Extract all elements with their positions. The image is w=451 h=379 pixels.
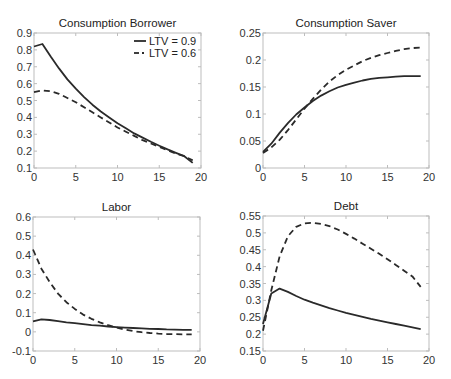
y-tick-label: 0.1 bbox=[246, 108, 261, 120]
x-tick-label: 10 bbox=[110, 354, 122, 366]
y-tick-label: 0.25 bbox=[240, 27, 261, 39]
y-tick-label: 0.5 bbox=[246, 227, 261, 239]
panel-labor: Labor05101520-0.100.10.20.30.40.50.6 bbox=[12, 201, 206, 366]
y-tick-label: 0 bbox=[255, 162, 261, 174]
x-tick-label: 10 bbox=[340, 354, 352, 366]
y-tick-label: 0.1 bbox=[16, 307, 31, 319]
x-tick-label: 5 bbox=[301, 171, 307, 183]
panel-title: Labor bbox=[102, 201, 132, 213]
panel-consumption-saver: Consumption Saver0510152000.050.10.150.2… bbox=[240, 17, 436, 183]
axes-frame bbox=[33, 217, 200, 351]
y-tick-label: 0.2 bbox=[17, 145, 32, 157]
axes-frame bbox=[263, 33, 429, 168]
y-tick-label: -0.1 bbox=[12, 345, 31, 357]
x-tick-label: 15 bbox=[381, 171, 393, 183]
axes-frame bbox=[263, 216, 429, 351]
y-tick-label: 0.7 bbox=[17, 61, 32, 73]
y-tick-label: 0.4 bbox=[246, 261, 261, 273]
y-tick-label: 0.3 bbox=[16, 268, 31, 280]
x-tick-label: 15 bbox=[152, 354, 164, 366]
y-tick-label: 0.8 bbox=[17, 44, 32, 56]
legend-label: LTV = 0.9 bbox=[149, 35, 196, 47]
panel-title: Debt bbox=[334, 200, 359, 212]
y-tick-label: 0.05 bbox=[240, 135, 261, 147]
x-tick-label: 5 bbox=[73, 171, 79, 183]
x-tick-label: 20 bbox=[194, 354, 206, 366]
y-tick-label: 0 bbox=[25, 326, 31, 338]
panel-title: Consumption Saver bbox=[296, 17, 397, 29]
y-tick-label: 0.2 bbox=[246, 54, 261, 66]
panel-consumption-borrower: Consumption Borrower051015200.10.20.30.4… bbox=[17, 17, 207, 183]
legend-label: LTV = 0.6 bbox=[149, 47, 196, 59]
y-tick-label: 0.2 bbox=[16, 288, 31, 300]
y-tick-label: 0.25 bbox=[240, 311, 261, 323]
y-tick-label: 0.3 bbox=[17, 128, 32, 140]
x-tick-label: 20 bbox=[195, 171, 207, 183]
y-tick-label: 0.6 bbox=[17, 78, 32, 90]
y-tick-label: 0.3 bbox=[246, 294, 261, 306]
y-tick-label: 0.15 bbox=[240, 81, 261, 93]
y-tick-label: 0.35 bbox=[240, 278, 261, 290]
chart-figure: Consumption Borrower051015200.10.20.30.4… bbox=[0, 0, 451, 379]
y-tick-label: 0.15 bbox=[240, 345, 261, 357]
y-tick-label: 0.9 bbox=[17, 27, 32, 39]
y-tick-label: 0.5 bbox=[16, 230, 31, 242]
x-tick-label: 5 bbox=[301, 354, 307, 366]
x-tick-label: 20 bbox=[423, 171, 435, 183]
y-tick-label: 0.55 bbox=[240, 210, 261, 222]
panel-debt: Debt051015200.150.20.250.30.350.40.450.5… bbox=[240, 200, 436, 366]
x-tick-label: 10 bbox=[340, 171, 352, 183]
x-tick-label: 15 bbox=[381, 354, 393, 366]
panel-title: Consumption Borrower bbox=[59, 17, 177, 29]
y-tick-label: 0.4 bbox=[16, 249, 31, 261]
y-tick-label: 0.6 bbox=[16, 211, 31, 223]
x-tick-label: 5 bbox=[72, 354, 78, 366]
y-tick-label: 0.4 bbox=[17, 111, 32, 123]
x-tick-label: 15 bbox=[153, 171, 165, 183]
y-tick-label: 0.45 bbox=[240, 244, 261, 256]
y-tick-label: 0.5 bbox=[17, 95, 32, 107]
x-tick-label: 20 bbox=[423, 354, 435, 366]
y-tick-label: 0.1 bbox=[17, 162, 32, 174]
x-tick-label: 10 bbox=[111, 171, 123, 183]
y-tick-label: 0.2 bbox=[246, 328, 261, 340]
